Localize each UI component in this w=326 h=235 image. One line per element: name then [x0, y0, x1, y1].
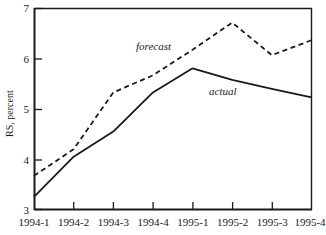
y-tick-label-7: 7	[24, 2, 30, 14]
x-tick-label-1994-2: 1994-2	[58, 216, 89, 228]
x-tick-label-1995-1: 1995-1	[177, 216, 208, 228]
y-axis-title: RS, percent	[4, 90, 15, 137]
y-tick-label-4: 4	[24, 154, 30, 166]
series-annotation-actual: actual	[209, 85, 237, 97]
x-tick-label-1995-2: 1995-2	[217, 216, 248, 228]
x-axis-ticks	[74, 202, 273, 210]
y-tick-label-5: 5	[24, 103, 30, 115]
chart-container: 7 6 5 4 3 RS, percent 1994-1 1994-2 1994…	[0, 0, 326, 235]
axis-frame	[34, 8, 312, 210]
y-tick-label-3: 3	[24, 204, 30, 216]
x-tick-label-1994-3: 1994-3	[98, 216, 130, 228]
series-line-forecast	[34, 23, 312, 176]
line-chart: 7 6 5 4 3 RS, percent 1994-1 1994-2 1994…	[0, 0, 326, 235]
y-tick-label-6: 6	[24, 53, 30, 65]
series-annotation-forecast: forecast	[136, 40, 172, 52]
x-tick-label-1995-3: 1995-3	[257, 216, 289, 228]
x-tick-label-1994-4: 1994-4	[138, 216, 170, 228]
x-tick-label-1994-1: 1994-1	[18, 216, 49, 228]
y-axis-ticks	[35, 9, 43, 210]
x-tick-label-1995-4: 1995-4	[294, 216, 326, 228]
series-line-actual	[34, 68, 312, 197]
